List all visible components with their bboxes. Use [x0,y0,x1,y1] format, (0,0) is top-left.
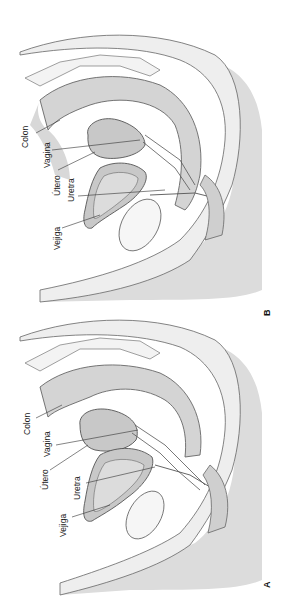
leader-utero [50,445,88,470]
label-uretra: Uretra [66,178,76,202]
label-vejiga: Vejiga [58,514,68,537]
label-utero: Útero [52,175,62,196]
label-colon: Colon [20,126,30,148]
label-utero: Útero [40,469,50,490]
urethra [155,465,210,487]
label-uretra: Uretra [72,476,82,500]
label-colon: Colon [22,413,32,435]
anatomy-diagram-a: Colon Vagina Útero Uretra Vejiga [0,305,281,611]
uterus [88,119,145,159]
label-vagina: Vagina [42,142,52,168]
uterus [80,409,137,451]
anatomy-diagram-b: Colon Vagina Útero Uretra Vejiga [0,0,281,305]
panel-a: Colon Vagina Útero Uretra Vejiga [0,305,281,611]
label-vejiga: Vejiga [52,227,62,250]
panel-b: Colon Vagina Útero Uretra Vejiga [0,0,281,305]
label-vagina: Vagina [42,431,52,457]
